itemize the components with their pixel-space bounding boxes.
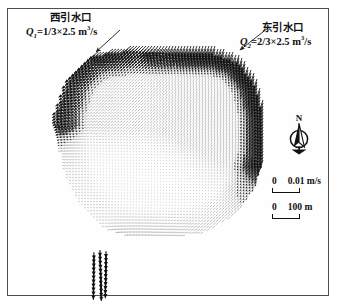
west-inlet-title: 西引水口 — [26, 12, 97, 24]
west-q-symbol: Q — [26, 26, 34, 37]
east-q-body: =2/3×2.5 m — [251, 36, 301, 47]
north-arrow-label: N — [283, 113, 315, 123]
scale-bar-velocity: 0 0.01 m/s — [272, 176, 321, 193]
scale-bar-distance-zero: 0 — [272, 202, 277, 212]
west-inlet-discharge: Q1=1/3×2.5 m3/s — [26, 24, 97, 40]
scale-bar-distance: 0 100 m — [272, 202, 312, 219]
east-q-suffix: /s — [304, 36, 311, 47]
east-inlet-title: 东引水口 — [240, 22, 311, 34]
annotation-east-inlet: 东引水口 Q2=2/3×2.5 m3/s — [240, 22, 311, 50]
scale-bar-distance-labels: 0 100 m — [272, 202, 312, 212]
north-arrow: N — [283, 113, 315, 161]
velocity-vectors — [52, 46, 263, 301]
scale-bar-distance-rule — [272, 213, 300, 219]
annotation-west-inlet: 西引水口 Q1=1/3×2.5 m3/s — [26, 12, 97, 40]
scale-bar-velocity-zero: 0 — [272, 176, 277, 186]
scale-bar-distance-value: 100 m — [288, 202, 313, 212]
scale-bar-velocity-rule — [272, 187, 300, 193]
scale-bar-velocity-value: 0.01 m/s — [288, 176, 321, 186]
west-q-suffix: /s — [90, 26, 97, 37]
figure-container: 西引水口 Q1=1/3×2.5 m3/s 东引水口 Q2=2/3×2.5 m3/… — [0, 0, 338, 308]
east-inlet-discharge: Q2=2/3×2.5 m3/s — [240, 34, 311, 50]
east-q-symbol: Q — [240, 36, 248, 47]
west-q-body: =1/3×2.5 m — [37, 26, 87, 37]
scale-bar-velocity-labels: 0 0.01 m/s — [272, 176, 321, 186]
